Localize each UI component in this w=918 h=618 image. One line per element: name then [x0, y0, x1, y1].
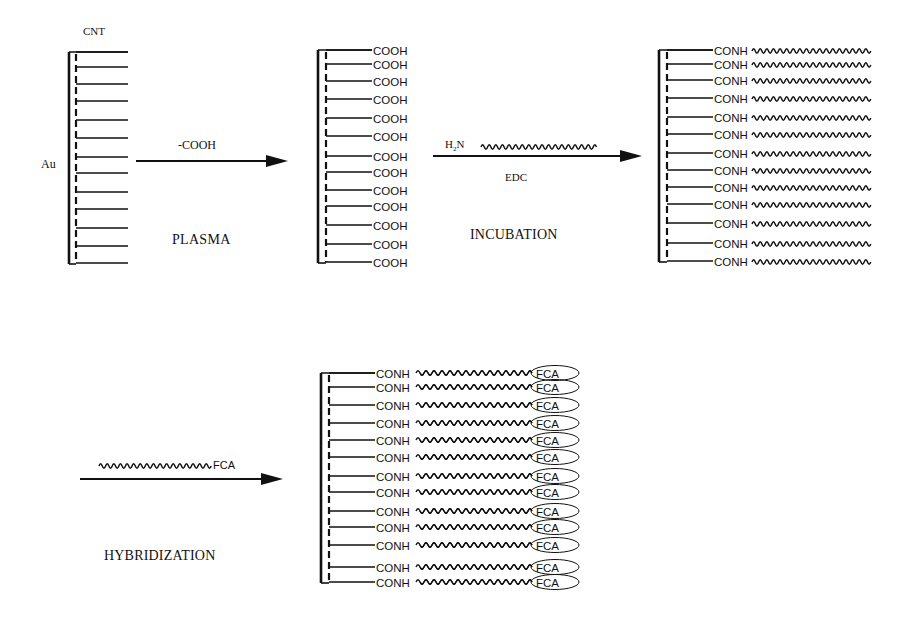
- functional-group-label: CONH: [376, 452, 410, 464]
- ssdna-probe-wave: [752, 242, 871, 246]
- functional-group-label: COOH: [373, 59, 408, 71]
- fca-tag-label: FCA: [536, 577, 559, 589]
- step2-reagent-amine: H2N: [445, 138, 464, 153]
- dsdna-helix: [420, 490, 532, 494]
- functional-group-label: CONH: [376, 487, 410, 499]
- electrode-panels: COOHCOOHCOOHCOOHCOOHCOOHCOOHCOOHCOOHCOOH…: [69, 45, 871, 590]
- cnt-row: COOH: [326, 59, 408, 71]
- step3-name-hybridization: HYBRIDIZATION: [104, 548, 215, 564]
- cnt-row: COOH: [326, 185, 408, 197]
- functional-group-label: COOH: [373, 76, 408, 88]
- cnt-row: COOH: [326, 239, 408, 251]
- functional-group-label: CONH: [714, 238, 748, 250]
- cnt-row: CONHFCA: [329, 538, 579, 553]
- ssdna-probe-wave: [752, 260, 871, 264]
- functional-group-label: CONH: [376, 562, 410, 574]
- electrode-panel-carboxylated-cnt-electrode: COOHCOOHCOOHCOOHCOOHCOOHCOOHCOOHCOOHCOOH…: [318, 45, 408, 269]
- dsdna-helix: [420, 385, 532, 389]
- electrode-panel-probe-immobilized-electrode: CONHCONHCONHCONHCONHCONHCONHCONHCONHCONH…: [659, 45, 871, 268]
- functional-group-label: CONH: [714, 256, 748, 268]
- cnt-row: CONH: [667, 45, 871, 57]
- functional-group-label: CONH: [376, 522, 410, 534]
- cnt-label: CNT: [83, 25, 105, 37]
- fca-tag-label: FCA: [536, 487, 559, 499]
- ssdna-probe-wave: [752, 79, 871, 83]
- ssdna-probe-wave: [752, 169, 871, 173]
- functional-group-label: CONH: [376, 368, 410, 380]
- functional-group-label: CONH: [376, 400, 410, 412]
- cnt-row: CONH: [667, 93, 871, 105]
- functional-group-label: CONH: [714, 165, 748, 177]
- cnt-row: CONHFCA: [329, 520, 579, 535]
- ssdna-probe-wave: [752, 222, 871, 226]
- amine-h: H: [445, 138, 453, 150]
- functional-group-label: COOH: [373, 257, 408, 269]
- amine-n: N: [456, 138, 464, 150]
- cnt-row: CONH: [667, 238, 871, 250]
- functional-group-label: CONH: [714, 129, 748, 141]
- cnt-row: CONH: [667, 148, 871, 160]
- ssdna-probe-wave: [752, 97, 871, 101]
- functional-group-label: CONH: [376, 382, 410, 394]
- functional-group-label: COOH: [373, 239, 408, 251]
- fca-tag-label: FCA: [536, 522, 559, 534]
- functional-group-label: CONH: [376, 540, 410, 552]
- arrow-plasma: [136, 155, 288, 167]
- ssdna-probe-wave: [752, 133, 871, 137]
- fca-tag-label: FCA: [536, 400, 559, 412]
- arrow-hybridization: [80, 473, 283, 485]
- fca-tag-label: FCA: [536, 435, 559, 447]
- cnt-row: CONH: [667, 75, 871, 87]
- cnt-row: CONHFCA: [329, 380, 579, 395]
- cnt-row: CONHFCA: [329, 560, 579, 575]
- functional-group-label: COOH: [373, 151, 408, 163]
- functional-group-label: COOH: [373, 201, 408, 213]
- functional-group-label: CONH: [714, 59, 748, 71]
- cnt-row: COOH: [326, 45, 408, 57]
- functional-group-label: COOH: [373, 94, 408, 106]
- functional-group-label: CONH: [376, 506, 410, 518]
- cnt-dna-sensor-fabrication-diagram: COOHCOOHCOOHCOOHCOOHCOOHCOOHCOOHCOOHCOOH…: [0, 0, 918, 618]
- cnt-row: COOH: [326, 94, 408, 106]
- functional-group-label: CONH: [714, 112, 748, 124]
- dsdna-helix: [420, 543, 532, 547]
- dsdna-helix: [420, 455, 532, 459]
- dsdna-helix: [420, 525, 532, 529]
- cnt-row: CONHFCA: [329, 485, 579, 500]
- au-label: Au: [41, 157, 56, 172]
- functional-group-label: COOH: [373, 167, 408, 179]
- cnt-row: COOH: [326, 220, 408, 232]
- cnt-row: CONH: [667, 199, 871, 211]
- arrow-head-icon: [261, 473, 283, 485]
- functional-group-label: CONH: [376, 418, 410, 430]
- functional-group-label: COOH: [373, 220, 408, 232]
- electrode-panel-hybridized-electrode: CONHFCACONHFCACONHFCACONHFCACONHFCACONHF…: [321, 366, 579, 590]
- arrow-head-icon: [266, 155, 288, 167]
- dsdna-helix: [420, 371, 532, 375]
- functional-group-label: CONH: [714, 148, 748, 160]
- cnt-row: CONH: [667, 218, 871, 230]
- cnt-row: CONHFCA: [329, 450, 579, 465]
- ssdna-probe-wave: [752, 186, 871, 190]
- fca-tag-label: FCA: [536, 452, 559, 464]
- step1-name-plasma: PLASMA: [172, 232, 231, 248]
- cnt-row: CONHFCA: [329, 398, 579, 413]
- cnt-row: COOH: [326, 151, 408, 163]
- functional-group-label: COOH: [373, 45, 408, 57]
- functional-group-label: COOH: [373, 131, 408, 143]
- cnt-row: CONHFCA: [329, 366, 579, 381]
- cnt-row: CONHFCA: [329, 504, 579, 519]
- arrow-head-icon: [620, 150, 642, 162]
- cnt-row: CONHFCA: [329, 575, 579, 590]
- dsdna-helix: [420, 403, 532, 407]
- cnt-row: CONHFCA: [329, 416, 579, 431]
- electrode-panel-bare-cnt-electrode: [69, 52, 128, 264]
- functional-group-label: CONH: [714, 93, 748, 105]
- cnt-row: CONH: [667, 256, 871, 268]
- cnt-row: COOH: [326, 167, 408, 179]
- cnt-row: COOH: [326, 113, 408, 125]
- dsdna-helix: [420, 580, 532, 584]
- fca-tag-label: FCA: [536, 506, 559, 518]
- functional-group-label: CONH: [714, 45, 748, 57]
- functional-group-label: CONH: [714, 182, 748, 194]
